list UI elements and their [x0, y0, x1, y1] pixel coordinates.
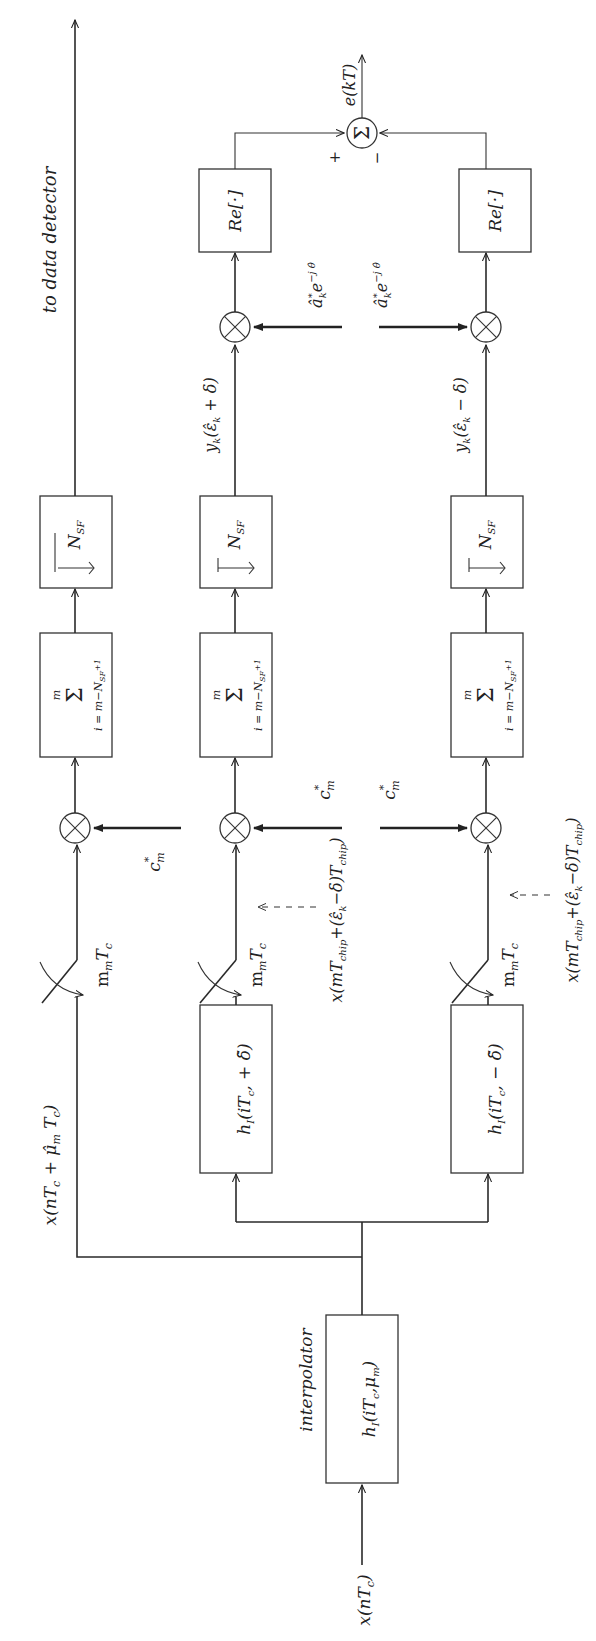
interpolator-caption: interpolator [296, 1327, 316, 1431]
minus-sign: − [368, 152, 386, 165]
error-summer: Σ + − e(kT) [329, 55, 386, 166]
code-label-early: c*m [312, 780, 337, 799]
symbol-multiplier-late: â*ke−j θ̂ [371, 253, 501, 342]
decimator-late: NSF yk(ε̂k − δ) [451, 345, 523, 588]
sum-upper-limit: m [210, 690, 223, 700]
code-label-late: c*m [377, 780, 402, 799]
code-multiplier-top: c*m [60, 758, 181, 872]
late-despread-output-label: yk(ε̂k − δ) [451, 377, 472, 453]
sum-block-early: Σ m i = m−NSF+1 [200, 589, 272, 757]
code-multiplier-late: c*m [377, 758, 501, 843]
decimator-early: NSF yk(ε̂k + δ) [200, 345, 272, 588]
late-sample-annotation: x(mTchip+(ε̂k−δ)Tchip) [510, 818, 584, 983]
early-filter-block: hI(iTc, + δ̃) [200, 1005, 272, 1173]
sum-sigma: Σ [222, 687, 247, 703]
early-sample-annotation: x(mTchip+(ε̂k−δ)Tchip) [258, 838, 348, 1003]
real-part-label: Re[·] [225, 190, 245, 233]
sum-block-late: Σ m i = m−NSF+1 [451, 589, 523, 757]
symbol-multiplier-early: â*ke−j θ̂ [220, 253, 342, 342]
plus-sign: + [329, 148, 342, 166]
real-part-block-late: Re[·] [380, 133, 531, 252]
late-filter-block: hI(iTc, − δ̃) [451, 1005, 523, 1173]
sum-upper-limit: m [50, 690, 63, 700]
code-label-top: c*m [142, 852, 167, 871]
sampler-late: mmTc [450, 845, 521, 1005]
sum-sigma: Σ [473, 687, 498, 703]
early-sample-label: x(mTchip+(ε̂k−δ)Tchip) [327, 838, 348, 1003]
late-sample-label: x(mTchip+(ε̂k−δ)Tchip) [563, 818, 584, 983]
real-part-label: Re[·] [485, 190, 505, 233]
real-part-block-early: Re[·] [199, 133, 344, 252]
sampler-top-label: mmTc [92, 943, 115, 987]
sigma-symbol: Σ [350, 126, 374, 140]
sampler-early: mmTc [198, 845, 269, 1005]
interpolator-block: hI(iTc,μm) interpolator [296, 1315, 398, 1483]
top-branch-signal-label: x(nTc + μ̂m Tc) [40, 1105, 63, 1226]
receiver-block-diagram: x(nTc) hI(iTc,μm) interpolator x(nTc + μ… [0, 0, 596, 1641]
late-symbol-label: â*ke−j θ̂ [371, 262, 393, 308]
code-multiplier-early: c*m [220, 758, 342, 843]
sum-upper-limit: m [461, 690, 474, 700]
sampler-early-label: mmTc [246, 943, 269, 987]
error-output-label: e(kT) [340, 64, 359, 106]
early-symbol-label: â*ke−j θ̂ [306, 262, 328, 308]
early-despread-output-label: yk(ε̂k + δ) [201, 377, 222, 453]
sampler-late-label: mmTc [498, 943, 521, 987]
sampler-top: mmTc [40, 845, 115, 1010]
input-label: x(nTc) [354, 1574, 377, 1625]
sum-sigma: Σ [62, 687, 87, 703]
decimator-top: NSF to data detector [39, 20, 112, 588]
sum-block-top: Σ m i = m−NSF+1 [40, 589, 112, 757]
data-detector-label: to data detector [39, 165, 60, 313]
input-signal: x(nTc) [354, 1485, 377, 1626]
